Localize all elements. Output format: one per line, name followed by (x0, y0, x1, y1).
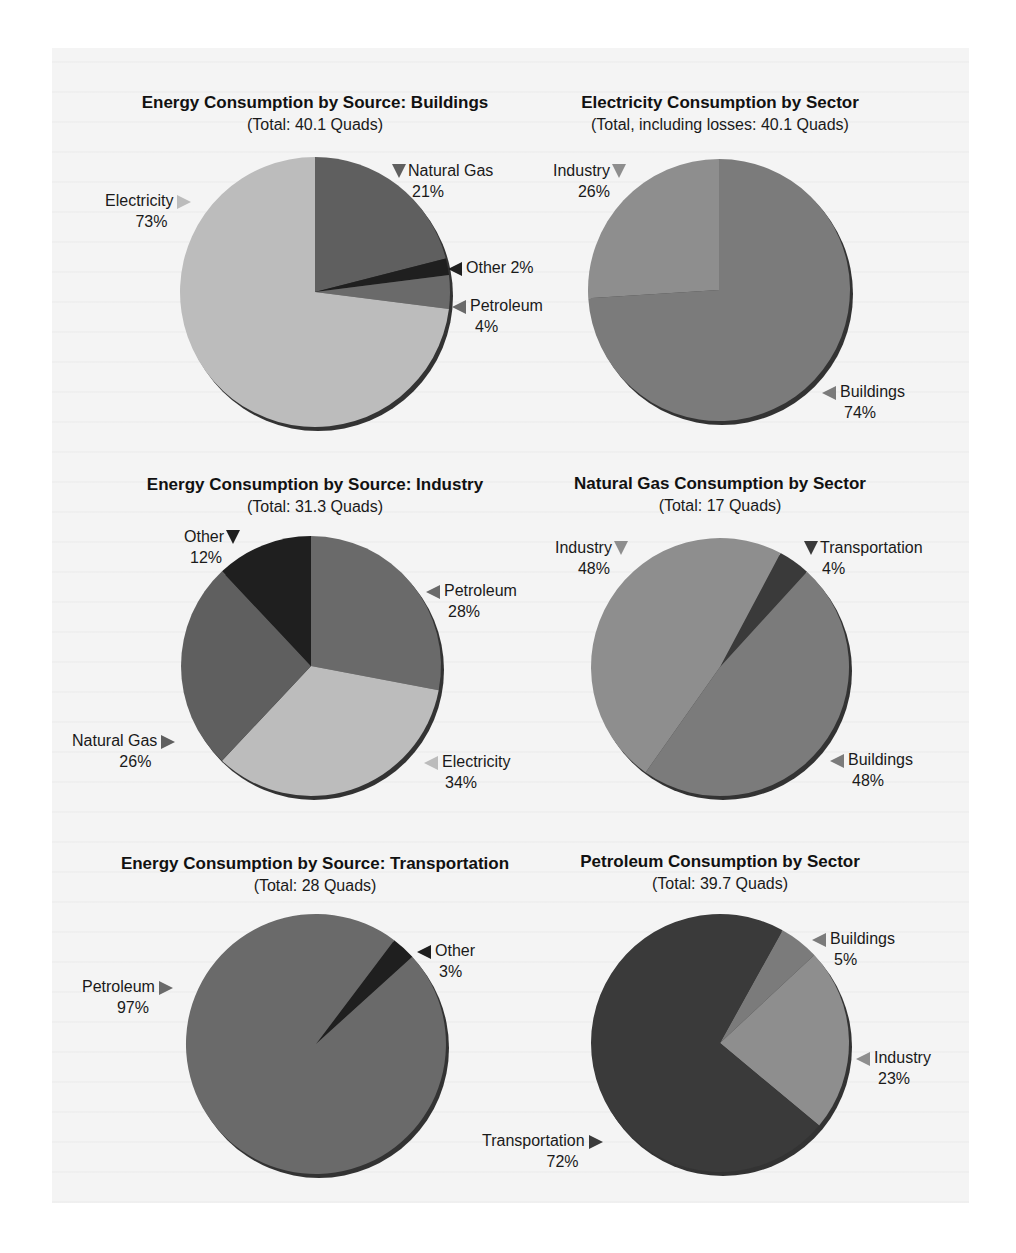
chart-title: Energy Consumption by Source: Buildings (80, 93, 550, 113)
chart-industry-source: Energy Consumption by Source: Industry (… (80, 472, 550, 852)
arrow-down-icon (226, 530, 240, 544)
label-buildings: Buildings 5% (812, 928, 895, 970)
arrow-left-icon (426, 585, 440, 599)
chart-title: Energy Consumption by Source: Industry (80, 475, 550, 495)
label-transportation: Transportation 4% (802, 537, 923, 579)
label-industry: Industry 26% (553, 160, 628, 202)
label-natural-gas: Natural Gas 26% (72, 730, 175, 772)
chart-subtitle: (Total: 39.7 Quads) (485, 875, 955, 893)
arrow-right-icon (159, 981, 173, 995)
arrow-right-icon (177, 195, 191, 209)
arrow-left-icon (822, 386, 836, 400)
chart-buildings-source: Energy Consumption by Source: Buildings … (80, 90, 550, 470)
label-buildings: Buildings 74% (822, 381, 905, 423)
label-buildings: Buildings 48% (830, 749, 913, 791)
arrow-down-icon (392, 164, 406, 178)
chart-title: Petroleum Consumption by Sector (485, 852, 955, 872)
label-other: Other 3% (417, 940, 475, 982)
arrow-down-icon (612, 164, 626, 178)
chart-subtitle: (Total: 28 Quads) (80, 877, 550, 895)
label-industry: Industry 23% (856, 1047, 931, 1089)
arrow-down-icon (804, 541, 818, 555)
label-petroleum: Petroleum 97% (82, 976, 173, 1018)
chart-title: Energy Consumption by Source: Transporta… (80, 854, 550, 874)
label-industry: Industry 48% (555, 537, 630, 579)
chart-subtitle: (Total, including losses: 40.1 Quads) (485, 116, 955, 134)
arrow-left-icon (417, 945, 431, 959)
arrow-left-icon (812, 933, 826, 947)
label-electricity: Electricity 73% (105, 190, 191, 232)
arrow-down-icon (614, 541, 628, 555)
chart-petroleum-sector: Petroleum Consumption by Sector (Total: … (485, 851, 955, 1231)
chart-subtitle: (Total: 40.1 Quads) (80, 116, 550, 134)
arrow-left-icon (856, 1052, 870, 1066)
chart-title: Natural Gas Consumption by Sector (485, 474, 955, 494)
chart-subtitle: (Total: 17 Quads) (485, 497, 955, 515)
arrow-left-icon (424, 756, 438, 770)
chart-subtitle: (Total: 31.3 Quads) (80, 498, 550, 516)
label-other: Other 12% (184, 526, 242, 568)
chart-transportation-source: Energy Consumption by Source: Transporta… (80, 851, 550, 1231)
arrow-left-icon (452, 300, 466, 314)
arrow-right-icon (589, 1135, 603, 1149)
label-transportation: Transportation 72% (482, 1130, 603, 1172)
arrow-left-icon (448, 262, 462, 276)
arrow-left-icon (830, 754, 844, 768)
chart-title: Electricity Consumption by Sector (485, 93, 955, 113)
arrow-right-icon (161, 735, 175, 749)
chart-natural-gas-sector: Natural Gas Consumption by Sector (Total… (485, 471, 955, 851)
label-natural-gas: Natural Gas 21% (390, 160, 493, 202)
